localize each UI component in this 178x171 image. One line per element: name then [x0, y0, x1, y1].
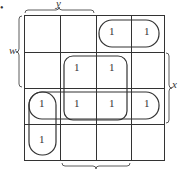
cell-r3c0: 1: [39, 133, 45, 145]
cell-r2c0: 1: [39, 97, 45, 109]
cell-r2c1: 1: [74, 97, 80, 109]
cell-r1c2: 1: [109, 61, 115, 73]
cell-r2c2: 1: [109, 97, 115, 109]
cell-r0c3: 1: [144, 25, 150, 37]
kmap-cells: 1 1 1 1 1 1 1 1 1: [24, 15, 164, 160]
cell-r1c1: 1: [74, 61, 80, 73]
cell-r2c3: 1: [144, 97, 150, 109]
cell-r0c2: 1: [109, 25, 115, 37]
